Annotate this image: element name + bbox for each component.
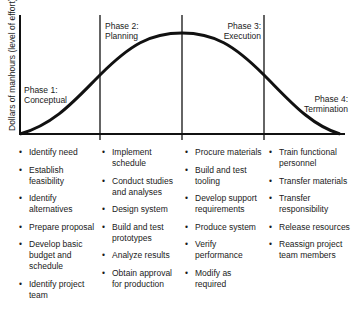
activity-item: Produce system	[184, 222, 264, 233]
phase-3-label: Phase 3: Execution	[222, 21, 261, 41]
activity-item: Build and test tooling	[184, 165, 264, 187]
activity-item: Establish feasibility	[18, 165, 100, 187]
activity-item: Identify need	[18, 147, 100, 158]
activity-item: Build and test prototypes	[101, 222, 181, 244]
activity-item: Conduct studies and analyses	[101, 176, 181, 198]
phase-1-activities: Identify need Establish feasibility Iden…	[18, 147, 100, 307]
activity-item: Design system	[101, 204, 181, 215]
activity-item: Transfer responsibility	[268, 193, 360, 215]
phase-4-activities: Train functional personnel Transfer mate…	[268, 147, 360, 268]
phase-2-label: Phase 2: Planning	[105, 21, 139, 41]
y-axis-label: Dollars of manhours (level of effort)	[7, 1, 19, 131]
activity-item: Release resources	[268, 222, 360, 233]
phase-4-label: Phase 4: Termination	[300, 94, 348, 114]
activity-item: Develop support requirements	[184, 193, 264, 215]
activity-item: Identify alternatives	[18, 193, 100, 215]
activity-item: Obtain approval for production	[101, 268, 181, 290]
activity-item: Transfer materials	[268, 176, 360, 187]
activity-item: Prepare proposal	[18, 222, 100, 233]
activity-item: Analyze results	[101, 250, 181, 261]
activity-item: Implement schedule	[101, 147, 181, 169]
activity-item: Develop basic budget and schedule	[18, 239, 100, 272]
activity-item: Modify as required	[184, 268, 264, 290]
life-cycle-chart	[0, 0, 363, 145]
phase-1-title: Phase 1:	[24, 85, 67, 95]
phase-1-subtitle: Conceptual	[24, 95, 67, 105]
phase-4-title: Phase 4:	[300, 94, 348, 104]
phase-3-subtitle: Execution	[222, 31, 261, 41]
phase-2-activities: Implement schedule Conduct studies and a…	[101, 147, 181, 296]
phase-3-title: Phase 3:	[222, 21, 261, 31]
phase-4-subtitle: Termination	[300, 104, 348, 114]
activity-item: Train functional personnel	[268, 147, 360, 169]
phase-3-activities: Procure materials Build and test tooling…	[184, 147, 264, 296]
activity-item: Reassign project team members	[268, 239, 360, 261]
phase-2-subtitle: Planning	[105, 31, 139, 41]
phase-1-label: Phase 1: Conceptual	[24, 85, 67, 105]
phase-2-title: Phase 2:	[105, 21, 139, 31]
activity-item: Verify performance	[184, 239, 264, 261]
activity-item: Identify project team	[18, 279, 100, 301]
activity-item: Procure materials	[184, 147, 264, 158]
effort-curve	[20, 33, 340, 134]
